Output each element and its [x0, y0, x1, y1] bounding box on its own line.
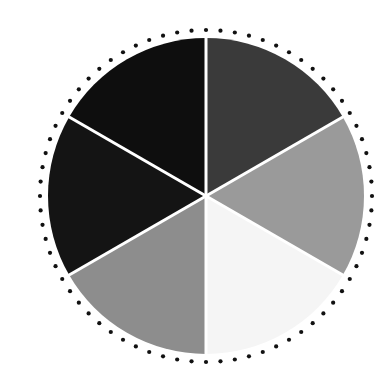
- ring-dot: [53, 124, 57, 128]
- ring-dot: [247, 34, 251, 38]
- ring-dot: [175, 357, 179, 361]
- ring-dot: [60, 277, 64, 281]
- ring-dot: [274, 344, 278, 348]
- ring-dot: [44, 237, 48, 241]
- ring-dot: [161, 34, 165, 38]
- ring-dot: [147, 350, 151, 354]
- ring-dot: [348, 111, 352, 115]
- ring-dot: [218, 29, 222, 33]
- ring-dot: [204, 360, 208, 364]
- ring-dot: [354, 124, 358, 128]
- ring-dot: [38, 194, 42, 198]
- ring-dot: [233, 357, 237, 361]
- ring-dot: [299, 58, 303, 62]
- ring-dot: [161, 354, 165, 358]
- ring-dot: [331, 87, 335, 91]
- pie-wheel-chart: [0, 0, 392, 388]
- ring-dot: [218, 359, 222, 363]
- ring-dot: [39, 208, 43, 212]
- ring-dot: [321, 77, 325, 81]
- ring-dot: [189, 29, 193, 33]
- ring-dot: [40, 165, 44, 169]
- ring-dot: [40, 223, 44, 227]
- ring-dot: [247, 354, 251, 358]
- ring-dot: [364, 151, 368, 155]
- ring-dot: [287, 50, 291, 54]
- ring-dot: [48, 251, 52, 255]
- ring-dot: [331, 301, 335, 305]
- ring-dot: [367, 165, 371, 169]
- ring-dot: [121, 50, 125, 54]
- ring-dot: [77, 301, 81, 305]
- ring-dot: [97, 321, 101, 325]
- ring-dot: [370, 194, 374, 198]
- ring-dot: [321, 311, 325, 315]
- ring-dot: [60, 111, 64, 115]
- ring-dot: [360, 137, 364, 141]
- ring-dot: [311, 321, 315, 325]
- ring-dot: [299, 330, 303, 334]
- ring-dot: [340, 99, 344, 103]
- ring-dot: [369, 208, 373, 212]
- ring-dot: [274, 43, 278, 47]
- ring-dot: [109, 330, 113, 334]
- ring-dot: [369, 179, 373, 183]
- ring-dot: [261, 350, 265, 354]
- ring-dot: [360, 251, 364, 255]
- ring-dot: [189, 359, 193, 363]
- ring-dot: [364, 237, 368, 241]
- ring-dot: [121, 338, 125, 342]
- ring-dot: [340, 289, 344, 293]
- ring-dot: [68, 99, 72, 103]
- ring-dot: [134, 344, 138, 348]
- ring-dot: [204, 28, 208, 32]
- ring-dot: [175, 30, 179, 34]
- ring-dot: [109, 58, 113, 62]
- ring-dot: [53, 264, 57, 268]
- ring-dot: [48, 137, 52, 141]
- ring-dot: [367, 223, 371, 227]
- ring-dot: [87, 311, 91, 315]
- ring-dot: [311, 67, 315, 71]
- ring-dot: [77, 87, 81, 91]
- ring-dot: [348, 277, 352, 281]
- ring-dot: [233, 30, 237, 34]
- ring-dot: [261, 38, 265, 42]
- ring-dot: [87, 77, 91, 81]
- ring-dot: [134, 43, 138, 47]
- ring-dot: [39, 179, 43, 183]
- ring-dot: [97, 67, 101, 71]
- ring-dot: [354, 264, 358, 268]
- ring-dot: [287, 338, 291, 342]
- ring-dot: [68, 289, 72, 293]
- figure-canvas: [0, 0, 392, 388]
- ring-dot: [44, 151, 48, 155]
- ring-dot: [147, 38, 151, 42]
